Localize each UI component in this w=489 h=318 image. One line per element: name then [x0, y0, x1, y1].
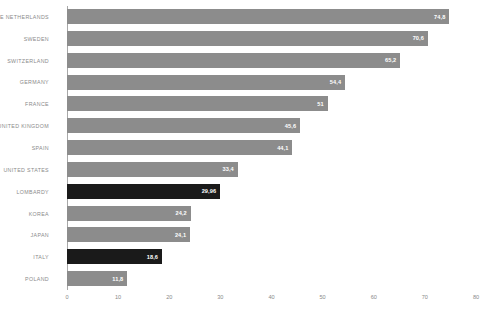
bar: 11,8 [67, 271, 127, 286]
bar: 65,2 [67, 53, 400, 68]
bar: 24,2 [67, 206, 191, 221]
category-label: KOREA [0, 211, 49, 217]
bar-value-label: 18,6 [147, 254, 158, 260]
bar-value-label: 54,4 [330, 79, 341, 85]
bar-value-label: 70,6 [413, 35, 424, 41]
x-axis-tick-label: 60 [371, 294, 377, 300]
bar-value-label: 24,2 [175, 210, 186, 216]
x-axis-tick-label: 40 [268, 294, 274, 300]
chart-row: 54,4GERMANY [67, 72, 476, 94]
category-label: POLAND [0, 276, 49, 282]
category-label: GERMANY [0, 79, 49, 85]
bar-value-label: 24,1 [175, 232, 186, 238]
bar: 54,4 [67, 75, 345, 90]
chart-row: 65,2SWITZERLAND [67, 50, 476, 72]
x-axis-tick-label: 30 [217, 294, 223, 300]
bar: 18,6 [67, 249, 162, 264]
x-axis-tick-label: 80 [473, 294, 479, 300]
bar-value-label: 65,2 [385, 57, 396, 63]
category-label: SWEDEN [0, 36, 49, 42]
chart-caption [6, 309, 476, 318]
x-axis-tick-label: 50 [320, 294, 326, 300]
chart-row: 29,96LOMBARDY [67, 181, 476, 203]
bar: 29,96 [67, 184, 220, 199]
category-label: FRANCE [0, 101, 49, 107]
bar-value-label: 29,96 [202, 188, 217, 194]
bar: 45,6 [67, 118, 300, 133]
chart-row: 70,6SWEDEN [67, 28, 476, 50]
chart-row: 44,1SPAIN [67, 137, 476, 159]
bar: 74,8 [67, 9, 449, 24]
bar-value-label: 44,1 [277, 145, 288, 151]
chart-row: 51FRANCE [67, 93, 476, 115]
chart-row: 45,6UNITED KINGDOM [67, 115, 476, 137]
category-label: UNITED STATES [0, 167, 49, 173]
bar: 33,4 [67, 162, 238, 177]
bar-value-label: 51 [317, 101, 323, 107]
category-label: SPAIN [0, 145, 49, 151]
bar-value-label: 74,8 [434, 14, 445, 20]
category-label: THE NETHERLANDS [0, 14, 49, 20]
category-label: SWITZERLAND [0, 58, 49, 64]
bar: 24,1 [67, 227, 190, 242]
category-label: LOMBARDY [0, 189, 49, 195]
x-axis-tick-label: 20 [166, 294, 172, 300]
x-axis-tick-label: 10 [115, 294, 121, 300]
bar-value-label: 11,8 [112, 276, 123, 282]
plot-area: 74,8THE NETHERLANDS70,6SWEDEN65,2SWITZER… [67, 6, 476, 290]
category-label: JAPAN [0, 232, 49, 238]
bar: 70,6 [67, 31, 428, 46]
bar-value-label: 33,4 [222, 166, 233, 172]
chart-row: 11,8POLAND [67, 268, 476, 290]
bar-value-label: 45,6 [285, 123, 296, 129]
category-label: UNITED KINGDOM [0, 123, 49, 129]
x-axis-tick-label: 0 [65, 294, 68, 300]
chart-row: 24,1JAPAN [67, 224, 476, 246]
chart-row: 24,2KOREA [67, 203, 476, 225]
chart-row: 33,4UNITED STATES [67, 159, 476, 181]
category-label: ITALY [0, 254, 49, 260]
bar: 51 [67, 96, 328, 111]
x-axis-tick-label: 70 [422, 294, 428, 300]
bar: 44,1 [67, 140, 292, 155]
chart-row: 18,6ITALY [67, 246, 476, 268]
chart-row: 74,8THE NETHERLANDS [67, 6, 476, 28]
bar-chart: 74,8THE NETHERLANDS70,6SWEDEN65,2SWITZER… [0, 0, 489, 318]
x-axis: 01020304050607080 [67, 290, 476, 308]
